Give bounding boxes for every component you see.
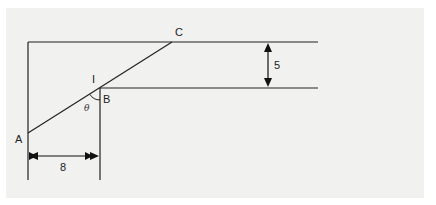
point-label-b: B	[103, 93, 110, 105]
arrowhead-down	[264, 78, 272, 87]
dimension-label-8: 8	[60, 161, 66, 173]
point-label-a: A	[15, 133, 23, 145]
angle-arc	[90, 94, 100, 100]
dimension-label-5: 5	[274, 59, 280, 71]
arrowhead-up	[264, 43, 272, 52]
geometry-diagram: C I B A θ 8 5	[0, 0, 436, 205]
point-label-i: I	[92, 73, 95, 85]
point-label-c: C	[175, 26, 183, 38]
arrowhead-left	[29, 152, 38, 160]
angle-label-theta: θ	[84, 103, 90, 113]
arrowhead-right	[90, 152, 99, 160]
